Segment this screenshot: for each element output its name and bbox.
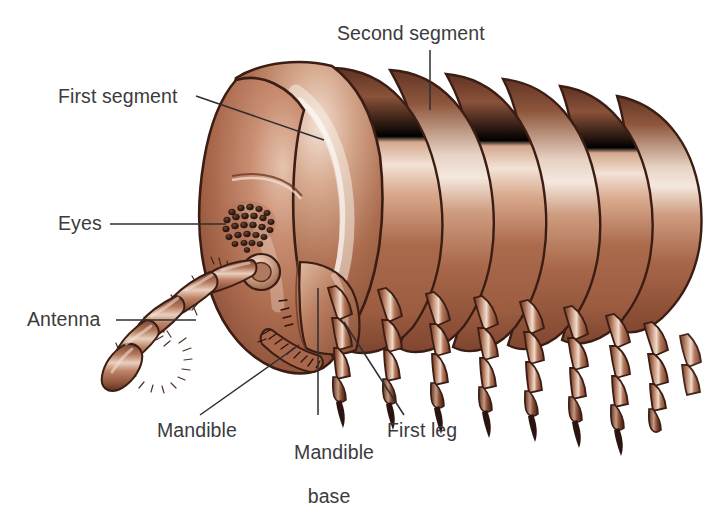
label-first-leg: First leg [387,419,457,441]
leg-7 [606,314,630,456]
leg-8 [644,322,668,432]
label-second-segment: Second segment [337,22,485,44]
label-mandible: Mandible [157,419,237,441]
leg-9 [680,334,701,395]
label-antenna: Antenna [27,308,100,330]
label-mandible-base-line1: Mandible [294,441,374,463]
label-mandible-base-line2: base [308,485,351,507]
label-eyes: Eyes [58,212,102,234]
label-mandible-base: Mandible base [272,419,364,507]
label-first-segment: First segment [58,85,177,107]
leader-mandible [200,345,299,415]
